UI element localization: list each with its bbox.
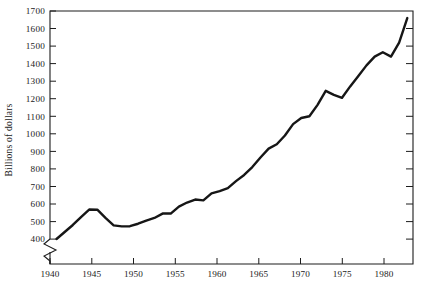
x-tick-label: 1965 bbox=[249, 269, 268, 279]
x-tick-label: 1960 bbox=[207, 269, 226, 279]
y-tick-label: 700 bbox=[31, 182, 46, 192]
y-axis-title: Billions of dollars bbox=[3, 103, 14, 176]
y-tick-label: 500 bbox=[31, 217, 46, 227]
y-tick-label: 1600 bbox=[26, 24, 45, 34]
line-chart: 1700 1600 1500 1400 1300 1200 1100 1000 … bbox=[0, 0, 425, 290]
y-tick-label: 1200 bbox=[26, 94, 45, 104]
y-tick-label: 1400 bbox=[26, 59, 45, 69]
y-tick-label: 1000 bbox=[26, 129, 45, 139]
data-series-line bbox=[57, 18, 408, 239]
y-axis-ticks bbox=[50, 11, 56, 239]
y-tick-label: 900 bbox=[31, 147, 46, 157]
x-tick-label: 1940 bbox=[40, 269, 59, 279]
chart-container: 1700 1600 1500 1400 1300 1200 1100 1000 … bbox=[0, 0, 425, 290]
y-tick-label: 1100 bbox=[26, 112, 45, 122]
y-tick-label: 1500 bbox=[26, 41, 45, 51]
y-tick-label: 600 bbox=[31, 199, 46, 209]
axis-left-and-bottom bbox=[50, 11, 413, 264]
y-tick-label: 400 bbox=[31, 234, 46, 244]
x-tick-label: 1955 bbox=[166, 269, 185, 279]
plot-frame bbox=[50, 11, 413, 264]
x-axis-tick-labels: 1940 1945 1950 1955 1960 1965 1970 1975 … bbox=[40, 269, 393, 279]
x-axis-ticks bbox=[50, 258, 384, 264]
y-tick-label: 1300 bbox=[26, 76, 45, 86]
x-tick-label: 1950 bbox=[124, 269, 143, 279]
x-tick-label: 1980 bbox=[374, 269, 393, 279]
x-tick-label: 1970 bbox=[291, 269, 310, 279]
right-axis-ticks bbox=[406, 29, 413, 240]
x-tick-label: 1975 bbox=[333, 269, 352, 279]
y-tick-label: 1700 bbox=[26, 6, 45, 16]
x-tick-label: 1945 bbox=[82, 269, 101, 279]
y-tick-label: 800 bbox=[31, 164, 46, 174]
y-axis-tick-labels: 1700 1600 1500 1400 1300 1200 1100 1000 … bbox=[26, 6, 45, 244]
